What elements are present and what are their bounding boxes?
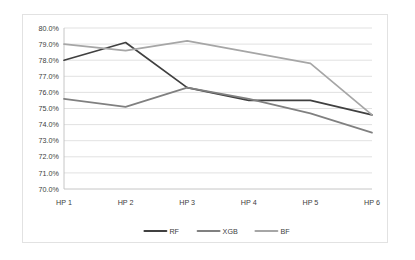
x-axis-tick-labels: HP 1HP 2HP 3HP 4HP 5HP 6 [56,198,380,207]
y-axis-tick-label: 76.0% [39,88,60,97]
series-lines-group [64,41,372,133]
chart-container: 80.0%79.0%78.0%77.0%76.0%75.0%74.0%73.0%… [22,14,388,243]
y-axis-tick-labels: 80.0%79.0%78.0%77.0%76.0%75.0%74.0%73.0%… [39,24,60,194]
y-axis-tick-label: 73.0% [39,136,60,145]
x-axis-tick-label: HP 3 [179,198,195,207]
y-axis-tick-label: 75.0% [39,104,60,113]
line-chart-plot: 80.0%79.0%78.0%77.0%76.0%75.0%74.0%73.0%… [23,15,387,242]
y-axis-tick-label: 78.0% [39,56,60,65]
x-axis-tick-label: HP 2 [118,198,134,207]
legend-label-bf: BF [280,227,290,236]
y-axis-tick-label: 71.0% [39,169,60,178]
y-axis-tick-label: 72.0% [39,152,60,161]
x-axis-tick-label: HP 5 [302,198,318,207]
gridlines-group [64,28,372,189]
y-axis-tick-label: 79.0% [39,40,60,49]
legend-label-rf: RF [169,227,179,236]
x-axis-tick-label: HP 6 [364,198,380,207]
chart-legend: RFXGBBF [144,227,290,236]
x-axis-tick-label: HP 1 [56,198,72,207]
x-axis-tick-label: HP 4 [241,198,257,207]
y-axis-tick-label: 70.0% [39,185,60,194]
y-axis-tick-label: 77.0% [39,72,60,81]
legend-label-xgb: XGB [223,227,238,236]
y-axis-tick-label: 74.0% [39,120,60,129]
y-axis-tick-label: 80.0% [39,24,60,33]
